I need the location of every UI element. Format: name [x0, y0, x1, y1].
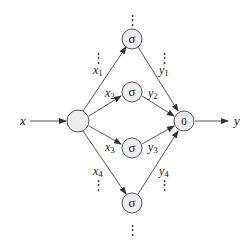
edge-x1 — [83, 47, 126, 111]
edge-y3 — [142, 126, 174, 144]
activation-label-2: σ — [128, 84, 135, 99]
output-label: y — [232, 113, 240, 128]
ellipsis-x-bottom: ⋮ — [92, 177, 105, 192]
output-node-label: 0 — [181, 115, 187, 127]
ellipsis-y-top: ⋮ — [158, 50, 171, 65]
input-node — [67, 110, 89, 132]
edge-label-y3: y3 — [147, 140, 158, 155]
edge-label-x2: x2 — [104, 86, 115, 101]
ellipsis-bottom: ⋮ — [126, 222, 139, 237]
neural-network-diagram: σ σ σ σ 0 x y x1 x2 x3 x4 y1 y2 y3 y4 ⋮ … — [0, 0, 250, 240]
edge-label-y1: y1 — [158, 63, 169, 78]
edge-label-x1: x1 — [92, 63, 103, 78]
activation-label-3: σ — [128, 140, 135, 155]
ellipsis-x-top: ⋮ — [92, 50, 105, 65]
activation-label-1: σ — [128, 31, 135, 46]
input-label: x — [19, 113, 26, 128]
edge-label-y2: y2 — [147, 86, 158, 101]
activation-label-4: σ — [128, 195, 135, 210]
edge-label-x3: x3 — [104, 140, 115, 155]
edge-y2 — [142, 96, 174, 116]
ellipsis-top: ⋮ — [126, 12, 139, 27]
edges — [30, 47, 228, 194]
ellipsis-y-bottom: ⋮ — [158, 177, 171, 192]
